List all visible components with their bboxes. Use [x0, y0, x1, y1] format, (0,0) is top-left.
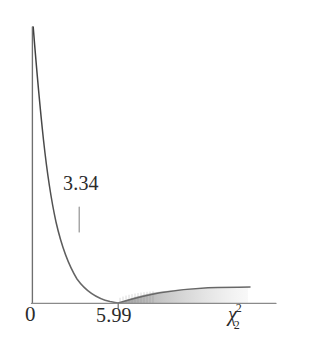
chi-subscript-df: 2 [234, 318, 240, 332]
density-curve [33, 27, 250, 303]
chi-superscript: 2 [236, 301, 242, 315]
x-tick-label-critical-value: 5.99 [96, 305, 132, 325]
distribution-plot [0, 0, 310, 356]
chi-square-figure: 0 5.99 3.34 χ22 [0, 0, 310, 356]
x-tick-label-origin: 0 [25, 304, 36, 325]
x-axis-title-chi-squared: χ22 [228, 303, 249, 328]
annotation-label-mean: 3.34 [63, 173, 99, 193]
